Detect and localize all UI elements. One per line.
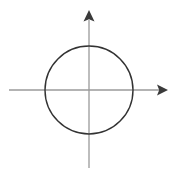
circle-diagram-figure <box>0 0 176 175</box>
diagram-canvas <box>0 0 176 175</box>
figure-background <box>0 0 176 175</box>
